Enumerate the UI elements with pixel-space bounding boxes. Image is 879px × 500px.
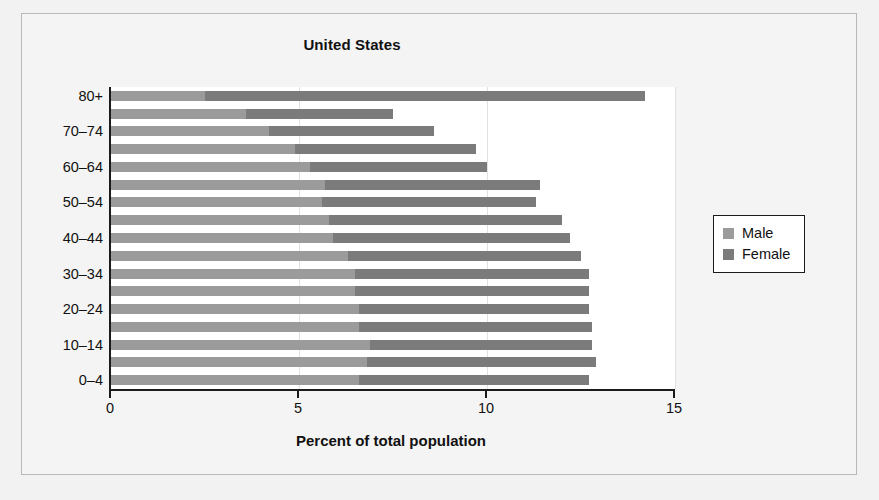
bar-row <box>111 91 645 101</box>
bar-segment-female <box>359 322 592 332</box>
bar-segment-female <box>310 162 487 172</box>
y-axis-tick-label: 80+ <box>33 89 103 104</box>
legend-item: Male <box>723 223 790 244</box>
bar-segment-male <box>111 144 295 154</box>
bar-segment-female <box>246 109 393 119</box>
bar-row <box>111 180 540 190</box>
bar-row <box>111 304 589 314</box>
bar-segment-female <box>367 357 596 367</box>
legend-label: Male <box>742 226 773 241</box>
x-axis-tick-label: 5 <box>294 400 302 416</box>
y-axis-tick-label: 20–24 <box>33 302 103 317</box>
bar-segment-female <box>269 126 434 136</box>
bar-segment-male <box>111 109 246 119</box>
y-axis-tick-label: 40–44 <box>33 231 103 246</box>
bar-row <box>111 109 393 119</box>
x-axis-label: Percent of total population <box>109 432 673 449</box>
legend-label: Female <box>742 247 790 262</box>
bar-segment-male <box>111 322 359 332</box>
bar-row <box>111 375 589 385</box>
x-axis: 051015 <box>109 391 677 425</box>
bar-segment-male <box>111 126 269 136</box>
bar-segment-female <box>359 375 588 385</box>
x-axis-tick-label: 15 <box>666 400 682 416</box>
x-axis-tick <box>485 391 487 398</box>
bar-row <box>111 322 592 332</box>
chart-figure: United States 0–410–1420–2430–3440–4450–… <box>21 13 857 475</box>
x-axis-tick-label: 10 <box>478 400 494 416</box>
y-axis-tick-label: 30–34 <box>33 267 103 282</box>
bar-segment-female <box>348 251 581 261</box>
bar-segment-male <box>111 304 359 314</box>
bar-segment-female <box>333 233 570 243</box>
bar-segment-female <box>370 340 592 350</box>
plot-area <box>109 87 675 391</box>
bar-segment-male <box>111 91 205 101</box>
bar-segment-female <box>359 304 588 314</box>
y-axis-tick-label: 50–54 <box>33 195 103 210</box>
legend-item: Female <box>723 244 790 265</box>
y-axis-tick-labels: 0–410–1420–2430–3440–4450–5460–6470–7480… <box>31 87 103 389</box>
bar-segment-male <box>111 357 367 367</box>
bar-segment-male <box>111 197 322 207</box>
bar-row <box>111 197 536 207</box>
bar-row <box>111 233 570 243</box>
bar-segment-male <box>111 162 310 172</box>
bar-segment-female <box>205 91 645 101</box>
bar-segment-female <box>355 286 588 296</box>
y-axis-tick-label: 10–14 <box>33 338 103 353</box>
x-axis-tick <box>673 391 675 398</box>
bar-row <box>111 340 592 350</box>
y-axis-tick-label: 0–4 <box>33 373 103 388</box>
bar-segment-male <box>111 340 370 350</box>
bar-row <box>111 126 434 136</box>
y-axis-tick-label: 60–64 <box>33 160 103 175</box>
bar-row <box>111 251 581 261</box>
bar-row <box>111 144 476 154</box>
legend-swatch-icon <box>723 249 734 260</box>
bar-segment-male <box>111 233 333 243</box>
bar-row <box>111 215 562 225</box>
gridline <box>675 87 676 389</box>
legend-swatch-icon <box>723 228 734 239</box>
x-axis-tick-label: 0 <box>106 400 114 416</box>
bar-row <box>111 357 596 367</box>
bar-segment-female <box>355 269 588 279</box>
bar-segment-male <box>111 375 359 385</box>
bar-segment-male <box>111 180 325 190</box>
bar-segment-male <box>111 269 355 279</box>
bar-segment-female <box>329 215 562 225</box>
bar-segment-male <box>111 215 329 225</box>
bar-segment-female <box>295 144 475 154</box>
bar-row <box>111 286 589 296</box>
bar-segment-male <box>111 286 355 296</box>
chart-title: United States <box>22 36 682 53</box>
bar-segment-female <box>325 180 539 190</box>
y-axis-tick-label: 70–74 <box>33 124 103 139</box>
x-axis-tick <box>109 391 111 398</box>
chart-legend: MaleFemale <box>713 215 805 273</box>
bar-row <box>111 269 589 279</box>
bar-row <box>111 162 487 172</box>
bar-segment-male <box>111 251 348 261</box>
bar-segment-female <box>322 197 536 207</box>
x-axis-tick <box>297 391 299 398</box>
